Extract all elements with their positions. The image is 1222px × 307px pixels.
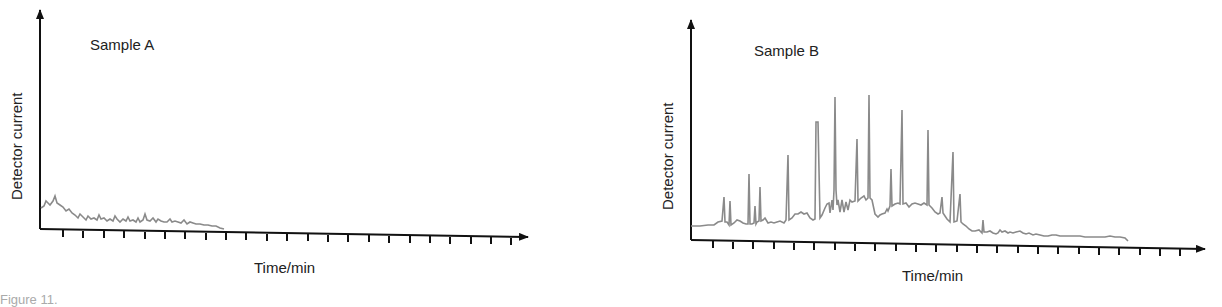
chart-title-b: Sample B — [754, 42, 819, 59]
x-axis-label-b: Time/min — [902, 267, 963, 284]
chart-sample-a: Sample A Detector current Time/min — [8, 10, 528, 276]
y-axis-label-a: Detector current — [8, 92, 25, 200]
x-axis — [40, 229, 528, 237]
x-axis — [691, 240, 1205, 249]
x-axis-label-a: Time/min — [254, 259, 315, 276]
signal-trace-a — [41, 196, 224, 229]
chart-sample-b: Sample B Detector current Time/min — [659, 20, 1205, 284]
figure-caption: Figure 11. — [0, 292, 58, 307]
chart-title-a: Sample A — [90, 36, 154, 53]
x-axis-ticks — [713, 241, 1180, 256]
y-axis-label-b: Detector current — [659, 102, 676, 210]
signal-trace-b — [691, 95, 1128, 241]
